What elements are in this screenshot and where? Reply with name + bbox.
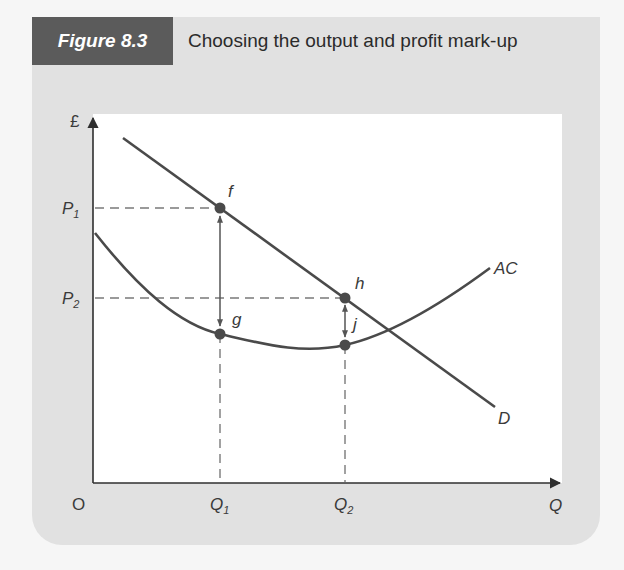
point-g-label: g <box>232 310 242 329</box>
point-j-label: j <box>351 315 358 334</box>
p1-label: P1 <box>62 199 79 220</box>
point-f <box>215 203 226 214</box>
y-axis-label: £ <box>70 112 80 131</box>
x-axis-label: Q <box>549 496 562 515</box>
point-j <box>340 340 351 351</box>
point-g <box>215 329 226 340</box>
demand-curve-label: D <box>498 409 510 428</box>
p2-label: P2 <box>62 289 79 310</box>
chart: £ O Q P1 P2 Q1 Q2 f g h j AC D <box>0 0 624 570</box>
point-h-label: h <box>355 274 364 293</box>
point-f-label: f <box>228 182 235 201</box>
ac-curve-label: AC <box>493 259 518 278</box>
q2-label: Q2 <box>334 495 353 516</box>
demand-curve <box>123 138 495 407</box>
q1-label: Q1 <box>210 495 229 516</box>
ac-curve <box>95 233 490 349</box>
origin-label: O <box>72 495 85 514</box>
point-h <box>340 293 351 304</box>
